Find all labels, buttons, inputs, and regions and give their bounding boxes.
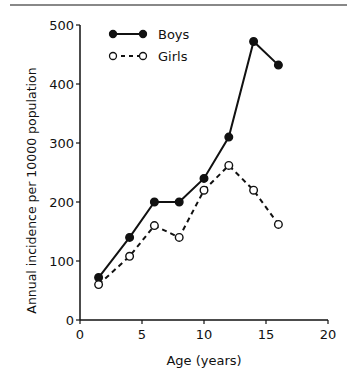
y-tick-label: 300	[49, 136, 74, 151]
legend-label: Girls	[158, 49, 188, 64]
x-tick-label: 0	[76, 327, 84, 342]
girls-marker	[225, 162, 233, 170]
boys-marker	[151, 198, 159, 206]
x-tick-label: 5	[138, 327, 146, 342]
boys-marker	[200, 175, 208, 183]
girls-marker	[151, 222, 159, 230]
x-axis-label: Age (years)	[166, 353, 241, 368]
y-tick-label: 100	[49, 254, 74, 269]
boys-marker	[225, 133, 233, 141]
line-chart: 051015200100200300400500Age (years)Annua…	[0, 0, 347, 378]
girls-marker	[126, 252, 134, 260]
legend-marker	[140, 31, 147, 38]
girls-marker	[250, 186, 258, 194]
x-tick-label: 20	[320, 327, 337, 342]
x-tick-label: 10	[196, 327, 213, 342]
boys-marker	[275, 61, 283, 69]
legend-marker	[110, 31, 117, 38]
y-tick-label: 400	[49, 77, 74, 92]
girls-line	[99, 165, 279, 284]
y-tick-label: 200	[49, 195, 74, 210]
girls-marker	[200, 186, 208, 194]
girls-marker	[275, 221, 283, 229]
boys-line	[99, 42, 279, 278]
y-tick-label: 500	[49, 18, 74, 33]
boys-marker	[126, 234, 134, 242]
legend-marker	[140, 53, 147, 60]
x-tick-label: 15	[258, 327, 275, 342]
legend-marker	[110, 53, 117, 60]
legend-label: Boys	[158, 27, 190, 42]
boys-marker	[250, 38, 258, 46]
y-tick-label: 0	[66, 313, 74, 328]
girls-marker	[95, 281, 103, 289]
boys-marker	[175, 198, 183, 206]
girls-marker	[175, 234, 183, 242]
y-axis-label: Annual incidence per 10000 population	[24, 67, 39, 313]
